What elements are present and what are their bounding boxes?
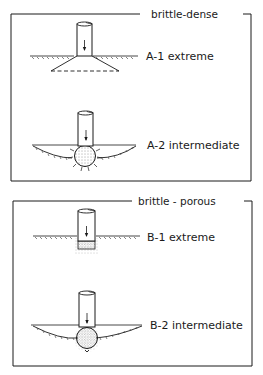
case-label: A-1 extreme <box>146 50 214 63</box>
case-label: B-1 extreme <box>147 231 215 244</box>
panel-title: brittle - porous <box>138 195 216 207</box>
case-a1: A-1 extreme <box>30 22 214 71</box>
failure-modes-diagram: brittle-dense A-1 extreme <box>0 0 263 375</box>
case-a2: A-2 intermediate <box>32 111 240 171</box>
case-label: A-2 intermediate <box>147 139 240 152</box>
case-b2: B-2 intermediate <box>31 291 243 352</box>
pipe-icon <box>78 111 93 146</box>
panel-frame <box>11 14 251 181</box>
panel-brittle-porous: brittle - porous B-1 extreme <box>13 195 252 366</box>
panel-frame <box>13 201 252 366</box>
panel-brittle-dense: brittle-dense A-1 extreme <box>11 8 251 182</box>
case-b1: B-1 extreme <box>33 209 215 254</box>
panel-title: brittle-dense <box>151 8 218 20</box>
case-label: B-2 intermediate <box>150 319 243 332</box>
